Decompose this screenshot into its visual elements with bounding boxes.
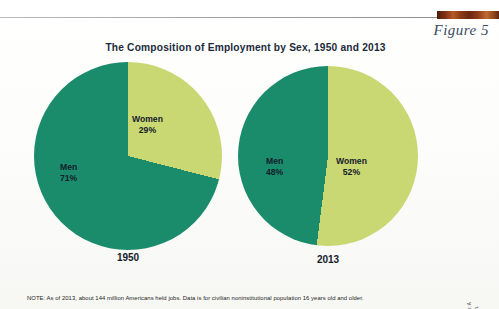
pie-2013-year: 2013 xyxy=(228,254,428,265)
header-rule xyxy=(0,17,438,18)
source-line-2: Databook (2010 edition)," www.bls.gov/cp… xyxy=(474,291,481,309)
pie-2013-women-value: 52% xyxy=(343,167,360,177)
chart-title: The Composition of Employment by Sex, 19… xyxy=(0,42,491,53)
figure-number-label: Figure 5 xyxy=(433,22,489,39)
pie-1950-men-value: 71% xyxy=(60,173,77,183)
pie-chart-2013: Men 48% Women 52% 2013 xyxy=(228,62,428,272)
pie-1950-women-label: Women 29% xyxy=(132,114,163,135)
pie-1950-men-label: Men 71% xyxy=(60,162,77,183)
pie-1950-women-name: Women xyxy=(132,114,163,124)
pie-2013-men-label: Men 48% xyxy=(266,156,283,177)
pie-1950-women-value: 29% xyxy=(139,125,156,135)
pie-2013-men-value: 48% xyxy=(266,167,283,177)
source-line-1: SOURCE: Bureau of Labor Statistics, "Wom… xyxy=(467,291,474,309)
figure-page: Figure 5 The Composition of Employment b… xyxy=(0,0,499,309)
figure-note: NOTE: As of 2013, about 144 million Amer… xyxy=(27,295,364,301)
pie-2013-men-name: Men xyxy=(266,156,283,166)
pie-2013-women-label: Women 52% xyxy=(336,156,367,177)
header-accent-bar xyxy=(437,11,499,19)
pie-chart-1950: Women 29% Men 71% 1950 xyxy=(28,62,228,272)
source-citation: SOURCE: Bureau of Labor Statistics, "Wom… xyxy=(467,291,481,309)
pie-1950-men-name: Men xyxy=(60,162,77,172)
pie-1950-graphic xyxy=(34,62,222,250)
pie-2013-women-name: Women xyxy=(336,156,367,166)
pie-1950-year: 1950 xyxy=(28,252,228,263)
pie-charts-container: Women 29% Men 71% 1950 Men 48% Women 52%… xyxy=(0,62,430,272)
pie-2013-graphic xyxy=(238,66,418,246)
